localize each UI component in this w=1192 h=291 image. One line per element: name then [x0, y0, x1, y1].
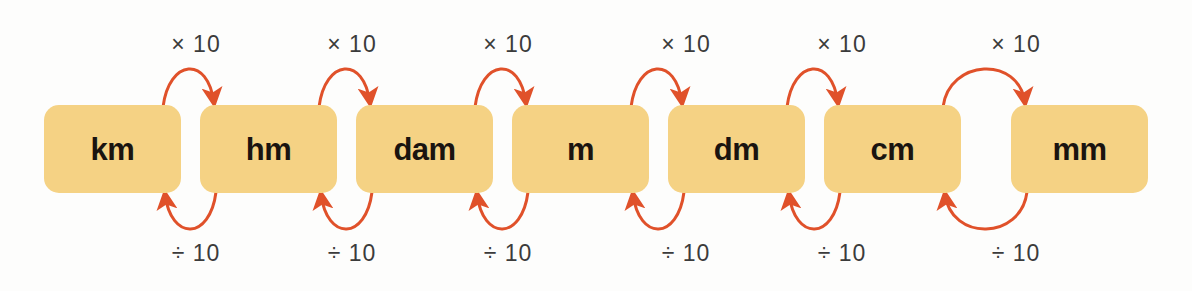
unit-box-label: km — [91, 134, 135, 165]
divide-arrow-hm-to-km — [165, 192, 216, 229]
unit-box-hm[interactable]: hm — [200, 105, 337, 193]
divide-arrow-group — [165, 192, 1027, 229]
multiply-label-dm-to-cm: × 10 — [792, 33, 892, 56]
divide-arrow-cm-to-dm — [789, 192, 840, 229]
unit-box-label: hm — [246, 134, 292, 165]
multiply-label-hm-to-dam: × 10 — [302, 33, 402, 56]
divide-label-cm-to-dm: ÷ 10 — [792, 242, 892, 265]
divide-label-hm-to-km: ÷ 10 — [146, 242, 246, 265]
multiply-arrow-dm-to-cm — [787, 69, 838, 107]
unit-box-cm[interactable]: cm — [824, 105, 961, 193]
multiply-label-dam-to-m: × 10 — [458, 33, 558, 56]
unit-box-label: mm — [1052, 134, 1106, 165]
multiply-label-km-to-hm: × 10 — [146, 33, 246, 56]
unit-box-dam[interactable]: dam — [356, 105, 493, 193]
unit-box-dm[interactable]: dm — [668, 105, 805, 193]
divide-label-m-to-dam: ÷ 10 — [458, 242, 558, 265]
multiply-arrow-dam-to-m — [475, 69, 526, 107]
unit-box-mm[interactable]: mm — [1011, 105, 1148, 193]
divide-label-dam-to-hm: ÷ 10 — [302, 242, 402, 265]
multiply-arrow-m-to-dm — [631, 69, 682, 107]
divide-arrow-dm-to-m — [633, 192, 684, 229]
multiply-arrow-cm-to-mm — [943, 69, 1025, 107]
divide-arrow-mm-to-cm — [945, 192, 1027, 229]
unit-box-km[interactable]: km — [44, 105, 181, 193]
unit-box-m[interactable]: m — [512, 105, 649, 193]
multiply-label-m-to-dm: × 10 — [636, 33, 736, 56]
divide-label-dm-to-m: ÷ 10 — [636, 242, 736, 265]
divide-arrow-m-to-dam — [477, 192, 528, 229]
multiply-arrow-hm-to-dam — [319, 69, 370, 107]
multiply-arrow-group — [163, 69, 1025, 107]
divide-label-mm-to-cm: ÷ 10 — [966, 242, 1066, 265]
multiply-label-cm-to-mm: × 10 — [966, 33, 1066, 56]
metric-conversion-diagram: kmhmdammdmcmmm × 10× 10× 10× 10× 10× 10 … — [0, 0, 1192, 291]
unit-box-label: dm — [714, 134, 760, 165]
unit-box-label: dam — [393, 134, 455, 165]
multiply-arrow-km-to-hm — [163, 69, 214, 107]
unit-box-label: m — [567, 134, 594, 165]
unit-box-label: cm — [871, 134, 915, 165]
divide-arrow-dam-to-hm — [321, 192, 372, 229]
